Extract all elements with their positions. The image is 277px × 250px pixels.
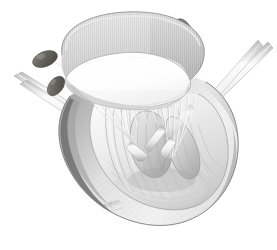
- medical-illustration-figure: A. Miller: [0, 0, 277, 250]
- heart-anatomy-illustration: A. Miller: [0, 0, 277, 250]
- papillary-base-shadow: [128, 168, 196, 192]
